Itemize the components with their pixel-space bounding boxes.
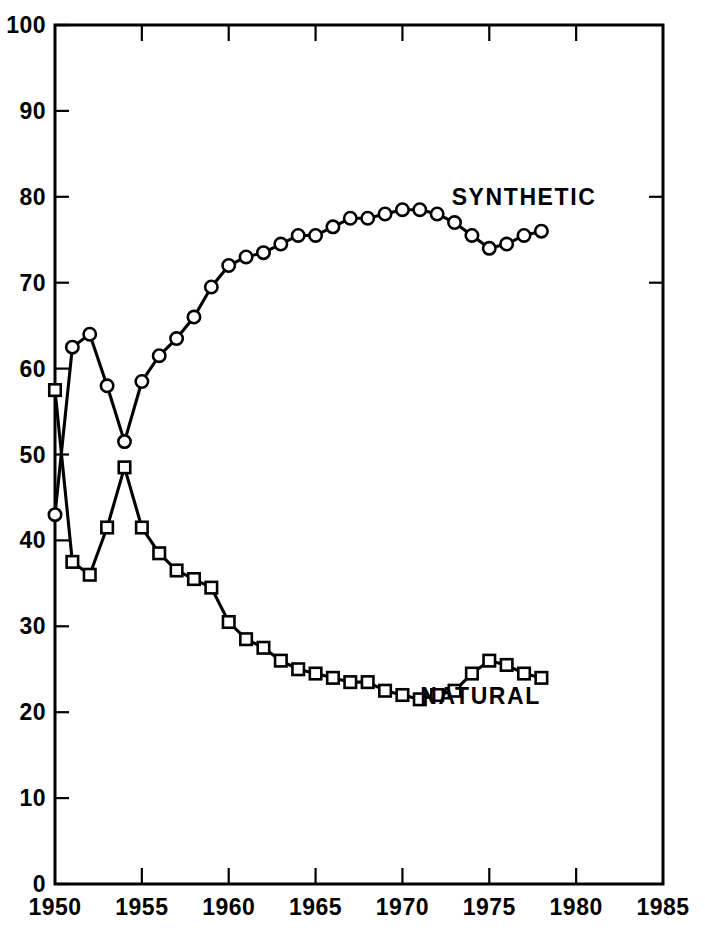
data-point-circle xyxy=(84,328,96,340)
data-point-square xyxy=(84,569,96,581)
series-lines xyxy=(55,210,541,700)
data-point-square xyxy=(397,689,409,701)
x-tick-label: 1965 xyxy=(289,894,342,920)
axis-frame xyxy=(55,25,663,884)
data-point-circle xyxy=(205,281,217,293)
data-point-circle xyxy=(101,380,113,392)
data-point-circle xyxy=(257,246,269,258)
data-point-circle xyxy=(309,229,321,241)
data-point-square xyxy=(310,668,322,680)
data-point-circle xyxy=(396,203,408,215)
data-point-square xyxy=(379,685,391,697)
series-label-synthetic: SYNTHETIC xyxy=(452,184,597,210)
x-tick-label: 1970 xyxy=(376,894,429,920)
x-tick-label: 1955 xyxy=(115,894,168,920)
data-point-circle xyxy=(379,208,391,220)
line-chart: 0102030405060708090100 19501955196019651… xyxy=(0,0,705,944)
data-point-circle xyxy=(535,225,547,237)
data-point-square xyxy=(466,668,478,680)
y-tick-label: 90 xyxy=(19,98,46,124)
y-tick-label: 70 xyxy=(19,270,46,296)
x-tick-label: 1980 xyxy=(550,894,603,920)
data-point-square xyxy=(49,384,61,396)
data-point-square xyxy=(362,676,374,688)
data-point-circle xyxy=(292,229,304,241)
series-labels: SYNTHETICNATURAL xyxy=(420,184,596,708)
data-point-square xyxy=(153,548,165,560)
data-point-square xyxy=(67,556,79,568)
data-point-square xyxy=(275,655,287,667)
series-markers xyxy=(49,203,548,705)
data-point-square xyxy=(101,522,113,534)
data-point-square xyxy=(188,573,200,585)
y-axis-tick-labels: 0102030405060708090100 xyxy=(6,12,46,897)
data-point-circle xyxy=(361,212,373,224)
data-point-circle xyxy=(518,229,530,241)
data-point-circle xyxy=(240,251,252,263)
data-point-circle xyxy=(136,375,148,387)
data-point-circle xyxy=(223,259,235,271)
y-tick-label: 10 xyxy=(19,785,46,811)
data-point-circle xyxy=(153,350,165,362)
data-point-circle xyxy=(466,229,478,241)
data-point-circle xyxy=(188,311,200,323)
data-point-square xyxy=(206,582,218,594)
x-tick-label: 1960 xyxy=(202,894,255,920)
data-point-square xyxy=(327,672,339,684)
series-label-natural: NATURAL xyxy=(420,683,541,709)
data-point-square xyxy=(223,616,235,628)
data-point-circle xyxy=(483,242,495,254)
data-point-circle xyxy=(327,221,339,233)
y-tick-label: 40 xyxy=(19,527,46,553)
data-point-circle xyxy=(170,332,182,344)
x-axis-tick-labels: 19501955196019651970197519801985 xyxy=(28,894,689,920)
y-tick-label: 60 xyxy=(19,356,46,382)
data-point-circle xyxy=(431,208,443,220)
y-tick-label: 100 xyxy=(6,12,46,38)
data-point-circle xyxy=(118,435,130,447)
data-point-square xyxy=(484,655,496,667)
data-point-circle xyxy=(344,212,356,224)
data-point-square xyxy=(119,462,130,474)
y-tick-label: 50 xyxy=(19,442,46,468)
data-point-circle xyxy=(500,238,512,250)
data-point-circle xyxy=(66,341,78,353)
y-tick-label: 30 xyxy=(19,613,46,639)
data-point-circle xyxy=(448,216,460,228)
y-tick-label: 20 xyxy=(19,699,46,725)
data-point-circle xyxy=(414,203,426,215)
chart-container: 0102030405060708090100 19501955196019651… xyxy=(0,0,705,944)
data-point-square xyxy=(240,633,252,645)
x-tick-label: 1975 xyxy=(463,894,516,920)
data-point-square xyxy=(258,642,270,654)
y-axis-ticks xyxy=(55,25,663,884)
y-tick-label: 80 xyxy=(19,184,46,210)
data-point-square xyxy=(171,565,183,577)
data-point-square xyxy=(292,664,304,676)
x-axis-ticks xyxy=(142,25,576,884)
data-point-square xyxy=(345,676,357,688)
plot-frame xyxy=(55,25,663,884)
data-point-square xyxy=(518,668,530,680)
x-tick-label: 1950 xyxy=(28,894,81,920)
data-point-circle xyxy=(49,508,61,520)
data-point-square xyxy=(136,522,148,534)
x-tick-label: 1985 xyxy=(636,894,689,920)
data-point-circle xyxy=(275,238,287,250)
data-point-square xyxy=(501,659,513,671)
